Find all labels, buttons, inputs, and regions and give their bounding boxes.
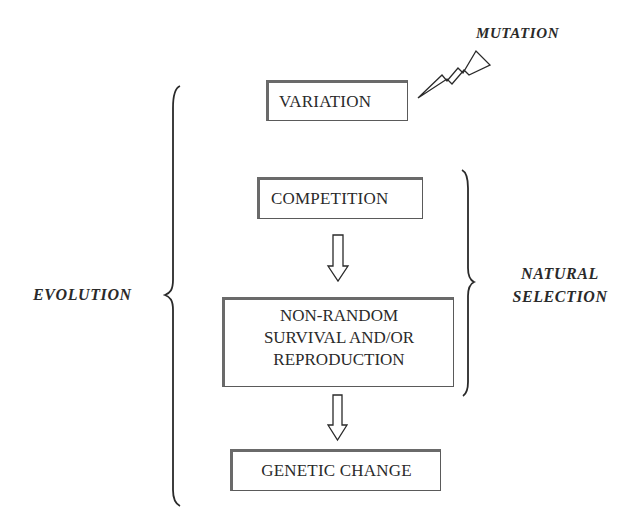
competition-box: COMPETITION bbox=[257, 177, 423, 219]
evolution-brace bbox=[165, 86, 180, 506]
mutation-label: MUTATION bbox=[476, 25, 559, 42]
variation-text: VARIATION bbox=[269, 83, 407, 120]
selection-label: SELECTION bbox=[508, 285, 612, 308]
survival-text-line1: NON-RANDOM bbox=[225, 305, 453, 327]
competition-text: COMPETITION bbox=[260, 180, 422, 218]
survival-reproduction-box: NON-RANDOM SURVIVAL AND/OR REPRODUCTION bbox=[222, 297, 454, 387]
survival-text-line3: REPRODUCTION bbox=[225, 349, 453, 371]
lightning-bolt-icon bbox=[418, 51, 490, 98]
down-arrow-icon bbox=[328, 235, 348, 281]
genetic-change-box: GENETIC CHANGE bbox=[230, 449, 441, 491]
selection-brace bbox=[462, 170, 474, 396]
survival-text-line2: SURVIVAL AND/OR bbox=[225, 327, 453, 349]
variation-box: VARIATION bbox=[266, 80, 408, 121]
genetic-change-text: GENETIC CHANGE bbox=[233, 452, 440, 490]
natural-selection-label: NATURAL SELECTION bbox=[508, 262, 612, 308]
natural-label: NATURAL bbox=[508, 262, 612, 285]
down-arrow-icon bbox=[328, 395, 347, 440]
evolution-label: EVOLUTION bbox=[33, 286, 132, 304]
